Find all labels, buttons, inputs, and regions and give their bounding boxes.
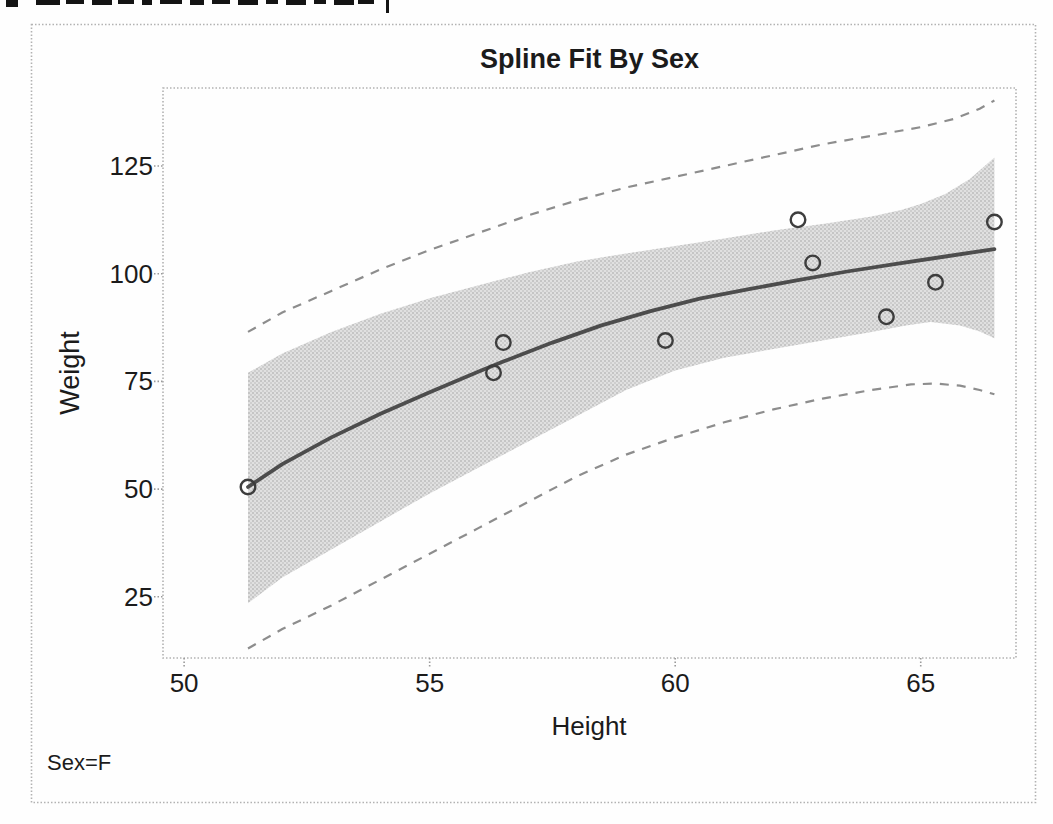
- chart-title: Spline Fit By Sex: [163, 44, 1016, 75]
- plot-svg: [0, 0, 1053, 824]
- scanned-page: Spline Fit By Sex Weight Height Sex=F 50…: [0, 0, 1053, 824]
- x-tick-label: 65: [881, 668, 961, 699]
- y-tick-label: 50: [83, 474, 153, 505]
- x-tick-label: 55: [390, 668, 470, 699]
- x-tick-label: 50: [144, 668, 224, 699]
- by-group-annotation: Sex=F: [47, 750, 111, 776]
- y-tick-label: 25: [83, 582, 153, 613]
- y-tick-label: 125: [83, 151, 153, 182]
- y-tick-label: 100: [83, 259, 153, 290]
- confidence-band: [248, 157, 994, 603]
- x-tick-label: 60: [635, 668, 715, 699]
- y-tick-label: 75: [83, 366, 153, 397]
- x-axis-label: Height: [489, 711, 689, 742]
- y-axis-label: Weight: [55, 331, 86, 415]
